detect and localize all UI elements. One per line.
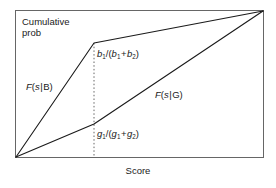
- cumulative-probability-figure: Cumulative prob F(s|B) F(s|G) b1/(b1+b2)…: [0, 0, 276, 188]
- formula-g-t1-sub: 1: [117, 133, 121, 140]
- formula-b-t2-sub: 2: [132, 53, 136, 60]
- x-axis-label: Score: [0, 165, 276, 176]
- formula-lower-kink: g1/(g1+g2): [97, 128, 139, 139]
- formula-b-close: ): [136, 48, 139, 59]
- y-axis-label: Cumulative prob: [22, 16, 70, 38]
- curve-label-g-cond: G: [172, 89, 179, 100]
- formula-b-num-sub: 1: [102, 53, 106, 60]
- formula-g-num-sub: 1: [102, 133, 106, 140]
- formula-g-t2-sub: 2: [132, 133, 136, 140]
- y-axis-label-line2: prob: [22, 27, 70, 38]
- curve-label-f-s-given-g: F(s|G): [155, 89, 183, 100]
- curve-label-f-s-given-b: F(s|B): [26, 81, 53, 92]
- curve-label-b-close: ): [50, 81, 53, 92]
- formula-g-close: ): [136, 128, 139, 139]
- formula-upper-kink: b1/(b1+b2): [97, 48, 139, 59]
- y-axis-label-line1: Cumulative: [22, 16, 70, 27]
- formula-b-t1-sub: 1: [117, 53, 121, 60]
- curve-label-g-close: ): [180, 89, 183, 100]
